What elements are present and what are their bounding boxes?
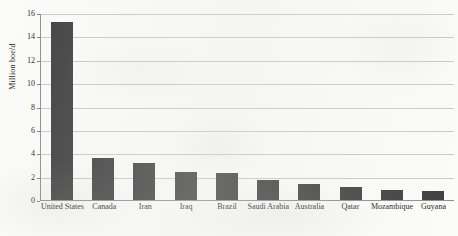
y-axis-tick-label: 8 [21,104,35,112]
bar-slot [165,14,206,200]
x-axis-category-label: Iran [125,203,166,212]
bar-slot [82,14,123,200]
y-axis-tick-label: 0 [21,197,35,205]
x-axis-category-label: Australia [289,203,330,212]
x-axis-category-label: Mozambique [371,203,413,212]
bar-series [41,14,454,200]
y-axis-title: Million boe/d [8,22,17,112]
y-axis-tick-label: 2 [21,174,35,182]
bar [298,184,320,200]
x-axis-category-label: Brazil [207,203,248,212]
bar [51,22,73,200]
y-axis-tick-label: 12 [21,57,35,65]
bar [175,172,197,200]
bar [92,158,114,200]
bar [133,163,155,200]
bar-slot [289,14,330,200]
bar-slot [371,14,412,200]
bar-chart-figure: Million boe/d 0246810121416 United State… [0,0,458,236]
bar [216,173,238,200]
bar [422,191,444,200]
x-axis-category-label: Canada [84,203,125,212]
x-axis-category-label: United States [41,203,84,212]
y-axis-tick-label: 16 [21,10,35,18]
bar-slot [206,14,247,200]
x-axis-category-label: Saudi Arabia [248,203,290,212]
bar-slot [41,14,82,200]
bar [340,187,362,200]
bar-slot [124,14,165,200]
x-axis-category-label: Guyana [413,203,454,212]
bar [381,190,403,200]
y-axis-tick-label: 4 [21,150,35,158]
y-axis-tick-mark [37,201,40,202]
bar-slot [330,14,371,200]
x-axis-line [40,200,454,201]
y-axis-tick-label: 10 [21,80,35,88]
bar-slot [413,14,454,200]
y-axis-tick-label: 14 [21,33,35,41]
x-axis-category-label: Iraq [166,203,207,212]
bar-slot [247,14,288,200]
x-axis-category-label: Qatar [330,203,371,212]
plot-area: 0246810121416 [40,14,454,201]
bar [257,180,279,200]
x-axis-labels: United StatesCanadaIranIraqBrazilSaudi A… [41,203,454,212]
y-axis-tick-label: 6 [21,127,35,135]
